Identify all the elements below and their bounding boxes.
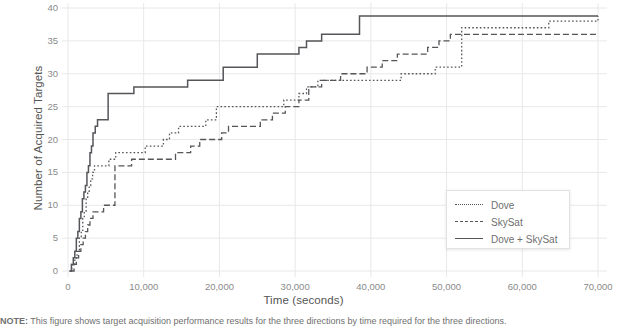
x-tick-label: 0	[33, 281, 103, 292]
y-tick-label: 0	[28, 265, 58, 276]
legend-swatch-skysat-icon	[455, 217, 483, 227]
legend-label-skysat: SkySat	[491, 217, 523, 228]
legend-swatch-dove-icon	[455, 200, 483, 210]
caption-prefix: NOTE:	[0, 316, 28, 326]
legend-item-dove: Dove	[455, 197, 561, 213]
x-tick-label: 60,000	[487, 281, 557, 292]
x-tick-label: 40,000	[336, 281, 406, 292]
legend-swatch-dove-skysat-icon	[455, 234, 483, 244]
y-tick-label: 40	[28, 2, 58, 13]
legend-item-skysat: SkySat	[455, 214, 561, 230]
x-tick-label: 70,000	[563, 281, 617, 292]
x-axis-label: Time (seconds)	[0, 294, 607, 306]
figure-caption: NOTE: This figure shows target acquisiti…	[0, 316, 607, 326]
x-tick-label: 30,000	[260, 281, 330, 292]
legend-label-dove-skysat: Dove + SkySat	[491, 234, 557, 245]
y-axis-label: Number of Acquired Targets	[32, 38, 44, 238]
legend-box: Dove SkySat Dove + SkySat	[446, 190, 570, 249]
x-tick-label: 50,000	[412, 281, 482, 292]
x-tick-label: 10,000	[109, 281, 179, 292]
caption-text: This figure shows target acquisition per…	[30, 316, 506, 326]
legend-item-dove-skysat: Dove + SkySat	[455, 231, 561, 247]
legend-label-dove: Dove	[491, 200, 514, 211]
x-tick-label: 20,000	[184, 281, 254, 292]
